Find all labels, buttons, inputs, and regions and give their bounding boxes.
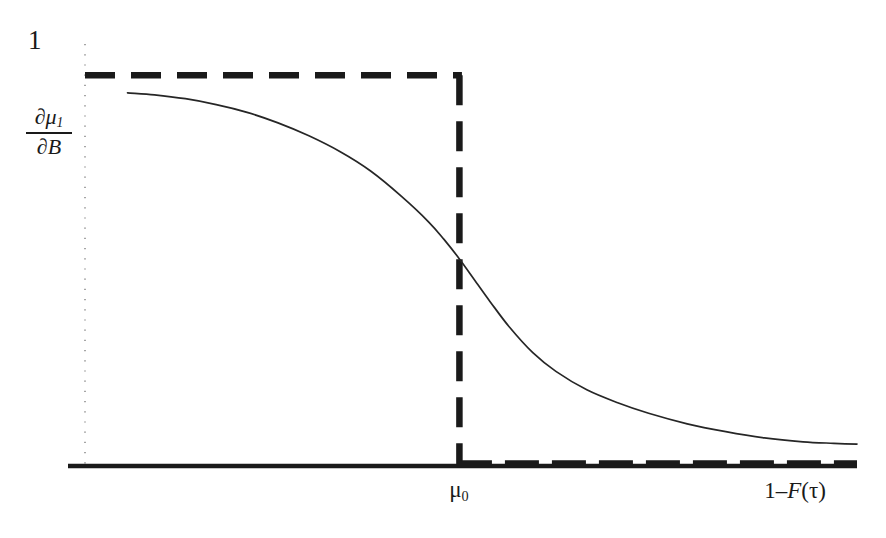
- x-axis-title-argument: (τ): [801, 478, 826, 503]
- y-axis-title-numerator: ∂μ1: [16, 106, 82, 131]
- y-axis-title-numerator-text: ∂μ: [35, 104, 57, 129]
- smooth-response-curve: [128, 93, 858, 444]
- x-axis-title-function: F: [787, 478, 801, 503]
- x-axis-tick-label-mu0-subscript: 0: [462, 488, 469, 504]
- y-axis-title-numerator-subscript: 1: [57, 115, 64, 130]
- x-axis-tick-label-mu0-text: μ: [449, 477, 461, 502]
- figure-canvas: 1 ∂μ1 ∂B μ0 1–F(τ): [0, 0, 886, 538]
- x-axis-tick-label-mu0: μ0: [434, 478, 484, 503]
- x-axis-title-prefix: 1–: [764, 478, 787, 503]
- x-axis-title: 1–F(τ): [735, 479, 855, 502]
- y-axis-title: ∂μ1 ∂B: [16, 106, 82, 158]
- y-axis-tick-label-one: 1: [28, 27, 42, 54]
- plot-area: [0, 0, 886, 538]
- y-axis-title-denominator: ∂B: [16, 135, 82, 158]
